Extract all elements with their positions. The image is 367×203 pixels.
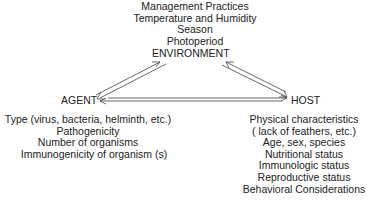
arrow-environment-to-agent: [97, 64, 166, 99]
arrow-agent-to-host: [108, 95, 287, 101]
triad-arrows: [0, 0, 367, 203]
arrow-host-to-environment: [226, 62, 286, 92]
arrow-host-to-agent: [100, 98, 282, 104]
arrow-agent-to-environment: [96, 62, 160, 95]
arrow-environment-to-host: [222, 65, 287, 97]
